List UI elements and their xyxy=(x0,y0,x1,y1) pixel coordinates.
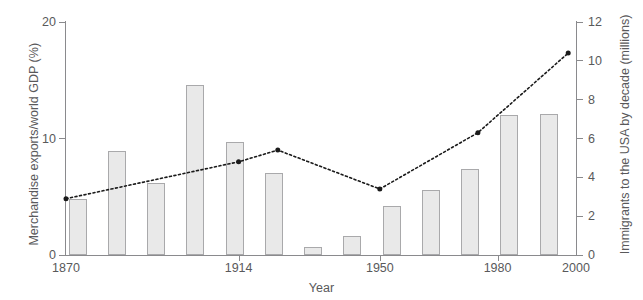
y-axis-right-tick-label: 2 xyxy=(588,210,595,223)
bar xyxy=(147,183,165,255)
bar xyxy=(343,236,361,255)
bar xyxy=(226,142,244,255)
chart-figure: 01020 024681012 18701914195019802000 Mer… xyxy=(0,0,643,300)
bar xyxy=(304,247,322,255)
x-axis-title: Year xyxy=(0,282,643,295)
y-axis-left-tick xyxy=(59,138,65,139)
x-axis-tick-label: 2000 xyxy=(546,262,606,275)
y-axis-right-tick xyxy=(577,177,583,178)
y-axis-right-tick xyxy=(577,22,583,23)
y-axis-left-title: Merchandise exports/world GDP (%) xyxy=(28,34,41,254)
y-axis-right-tick-label: 6 xyxy=(588,133,595,146)
y-axis-right-title: Immigrants to the USA by decade (million… xyxy=(619,34,632,254)
x-axis-tick-label: 1870 xyxy=(36,262,96,275)
bar-series xyxy=(66,22,576,255)
y-axis-right-tick-label: 8 xyxy=(588,94,595,107)
bar xyxy=(500,115,518,255)
y-axis-right-tick xyxy=(577,255,583,256)
bar xyxy=(383,206,401,255)
x-axis-tick-label: 1914 xyxy=(209,262,269,275)
y-axis-left-tick xyxy=(59,22,65,23)
y-axis-right-tick xyxy=(577,60,583,61)
y-axis-right-tick-label: 10 xyxy=(588,55,602,68)
bar xyxy=(540,114,558,255)
y-axis-right-tick-label: 12 xyxy=(588,16,602,29)
x-axis-tick-label: 1980 xyxy=(468,262,528,275)
y-axis-right-tick xyxy=(577,138,583,139)
y-axis-right-tick xyxy=(577,99,583,100)
x-axis-tick-label: 1950 xyxy=(350,262,410,275)
y-axis-right-tick xyxy=(577,216,583,217)
bar xyxy=(461,169,479,255)
bar xyxy=(186,85,204,255)
bar xyxy=(69,199,87,255)
y-axis-left-tick-label: 20 xyxy=(14,16,56,29)
y-axis-right-tick-label: 0 xyxy=(588,249,595,262)
y-axis-right-tick-label: 4 xyxy=(588,171,595,184)
y-axis-left-tick xyxy=(59,255,65,256)
bar xyxy=(422,190,440,255)
bar xyxy=(265,173,283,255)
bar xyxy=(108,151,126,255)
x-axis-line xyxy=(65,255,577,256)
